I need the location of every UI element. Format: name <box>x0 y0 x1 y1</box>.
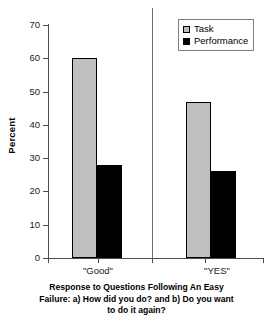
caption-line-1: Response to Questions Following An Easy <box>0 282 273 294</box>
y-tick-mark <box>43 158 48 159</box>
y-axis-line <box>48 24 49 259</box>
x-tick-mark <box>263 259 264 263</box>
bar-chart-figure: Percent 010203040506070 Task Performance… <box>0 0 273 322</box>
y-tick-label: 0 <box>0 253 40 263</box>
performance-swatch-icon <box>183 38 190 45</box>
y-tick-label: 20 <box>0 186 40 196</box>
bar-task-yes <box>186 102 211 258</box>
y-tick-label: 70 <box>0 20 40 30</box>
legend-label-performance: Performance <box>194 36 248 46</box>
y-axis-title: Percent <box>6 96 17 176</box>
x-tick-mark <box>152 259 153 263</box>
x-tick-mark <box>205 259 206 263</box>
bar-task-good <box>72 58 97 258</box>
caption-line-2: Failure: a) How did you do? and b) Do yo… <box>0 294 273 306</box>
bar-performance-yes <box>211 171 236 258</box>
y-tick-mark <box>43 58 48 59</box>
legend-item-task: Task <box>183 23 248 35</box>
x-tick-mark <box>48 259 49 263</box>
y-tick-label: 60 <box>0 53 40 63</box>
chart-legend: Task Performance <box>178 19 254 51</box>
y-tick-mark <box>43 225 48 226</box>
y-tick-label: 30 <box>0 153 40 163</box>
y-tick-label: 10 <box>0 220 40 230</box>
y-tick-label: 40 <box>0 120 40 130</box>
bar-performance-good <box>97 165 122 258</box>
legend-item-performance: Performance <box>183 35 248 47</box>
y-tick-mark <box>43 125 48 126</box>
y-tick-mark <box>43 25 48 26</box>
x-axis-line <box>48 258 264 259</box>
y-tick-mark <box>43 92 48 93</box>
chart-caption: Response to Questions Following An Easy … <box>0 282 273 317</box>
y-tick-mark <box>43 191 48 192</box>
y-tick-label: 50 <box>0 87 40 97</box>
x-category-label-yes: "YES" <box>157 265 273 276</box>
task-swatch-icon <box>183 26 190 33</box>
caption-line-3: to do it again? <box>0 305 273 317</box>
group-divider-line <box>152 8 153 258</box>
x-category-label-good: "Good" <box>38 265 158 276</box>
legend-label-task: Task <box>194 24 214 34</box>
x-tick-mark <box>98 259 99 263</box>
